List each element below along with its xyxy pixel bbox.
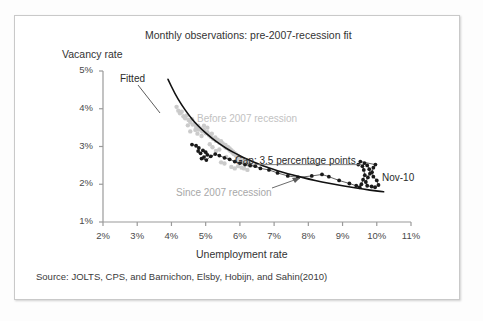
data-point-before-2007: [245, 168, 249, 172]
data-point-since-2007: [337, 179, 341, 183]
x-tick-label: 3%: [123, 230, 151, 241]
y-tick-label: 4%: [67, 102, 93, 113]
y-tick-label: 1%: [67, 215, 93, 226]
data-point-before-2007: [188, 129, 192, 133]
data-point-since-2007: [364, 180, 368, 184]
y-tick-label: 2%: [67, 177, 93, 188]
fitted-leader-line: [138, 85, 160, 113]
data-point-since-2007: [365, 163, 369, 167]
data-point-since-2007: [228, 157, 232, 161]
chart-title: Monthly observations: pre-2007-recession…: [145, 29, 352, 41]
data-point-before-2007: [229, 165, 233, 169]
x-tick-label: 7%: [260, 230, 288, 241]
data-point-since-2007: [190, 143, 194, 147]
source-note: Source: JOLTS, CPS, and Barnichon, Elsby…: [36, 271, 327, 282]
data-point-since-2007: [310, 174, 314, 178]
data-point-since-2007: [365, 184, 369, 188]
data-point-since-2007: [327, 175, 331, 179]
data-point-before-2007: [195, 131, 199, 135]
data-point-since-2007: [362, 168, 366, 172]
data-point-since-2007: [199, 151, 203, 155]
data-point-before-2007: [208, 142, 212, 146]
data-point-since-2007: [373, 185, 377, 189]
data-point-before-2007: [186, 123, 190, 127]
annotation-nov-10: Nov-10: [382, 172, 414, 183]
data-point-before-2007: [205, 125, 209, 129]
data-point-since-2007: [223, 156, 227, 160]
data-point-since-2007: [375, 179, 379, 183]
x-tick-label: 2%: [89, 230, 117, 241]
annotation-since-2007-recession: Since 2007 recession: [176, 187, 272, 198]
data-point-since-2007: [367, 167, 371, 171]
x-tick-label: 8%: [294, 230, 322, 241]
annotation-gap: Gap: 3.5 percentage points: [235, 155, 356, 166]
data-point-since-2007: [377, 183, 381, 187]
data-point-since-2007: [348, 182, 352, 186]
y-tick-label: 3%: [67, 140, 93, 151]
data-point-since-2007: [371, 175, 375, 179]
data-point-since-2007: [370, 170, 374, 174]
data-point-since-2007: [209, 154, 213, 158]
x-tick-label: 10%: [363, 230, 391, 241]
x-tick-label: 11%: [397, 230, 425, 241]
data-point-since-2007: [366, 176, 370, 180]
x-tick-label: 4%: [157, 230, 185, 241]
data-point-before-2007: [210, 131, 214, 135]
data-point-since-2007: [217, 154, 221, 158]
data-point-since-2007: [359, 182, 363, 186]
data-point-before-2007: [174, 105, 178, 109]
data-point-since-2007: [374, 163, 378, 167]
data-point-since-2007: [370, 185, 374, 189]
x-tick-label: 5%: [192, 230, 220, 241]
x-tick-label: 6%: [226, 230, 254, 241]
data-point-since-2007: [363, 173, 367, 177]
data-point-since-2007: [259, 167, 263, 171]
data-point-before-2007: [180, 110, 184, 114]
y-axis-label: Vacancy rate: [62, 48, 123, 60]
annotation-fitted: Fitted: [120, 73, 145, 84]
data-point-before-2007: [193, 128, 197, 132]
data-point-since-2007: [213, 152, 217, 156]
data-point-before-2007: [199, 134, 203, 138]
chart-figure: Monthly observations: pre-2007-recession…: [0, 0, 483, 321]
y-tick-label: 5%: [67, 64, 93, 75]
data-point-before-2007: [219, 160, 223, 164]
annotation-before-2007-recession: Before 2007 recession: [197, 113, 297, 124]
data-point-since-2007: [204, 158, 208, 162]
data-point-since-2007: [205, 153, 209, 157]
x-tick-label: 9%: [329, 230, 357, 241]
data-point-since-2007: [200, 157, 204, 161]
x-axis-label: Unemployment rate: [196, 248, 288, 260]
data-point-since-2007: [320, 173, 324, 177]
